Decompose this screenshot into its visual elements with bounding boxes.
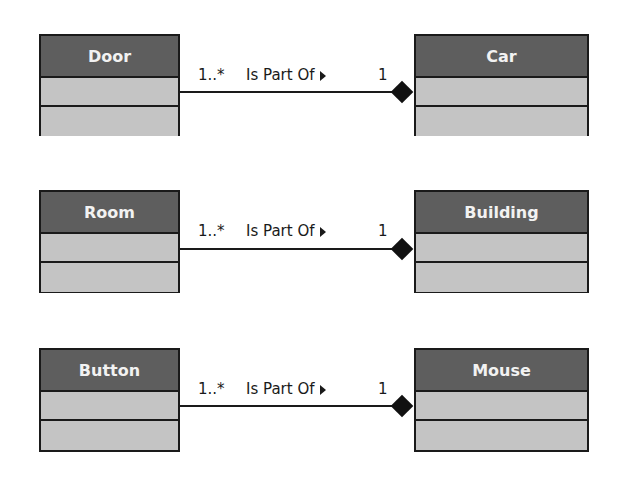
operations-compartment (416, 421, 587, 450)
class-header: Building (416, 192, 587, 234)
association-label: Is Part Of (246, 66, 326, 84)
class-door[interactable]: Door (39, 34, 180, 136)
class-name: Car (486, 47, 516, 66)
class-header: Door (41, 36, 178, 78)
filled-diamond-icon (391, 81, 414, 104)
class-name: Room (84, 203, 135, 222)
class-building[interactable]: Building (414, 190, 589, 293)
association-label: Is Part Of (246, 380, 326, 398)
part-multiplicity: 1..* (198, 222, 225, 240)
part-multiplicity: 1..* (198, 66, 225, 84)
composition-line[interactable] (180, 91, 402, 93)
triangle-right-icon (320, 71, 326, 81)
attributes-compartment (416, 234, 587, 263)
filled-diamond-icon (391, 395, 414, 418)
attributes-compartment (41, 392, 178, 421)
attributes-compartment (416, 78, 587, 107)
part-multiplicity: 1..* (198, 380, 225, 398)
triangle-right-icon (320, 385, 326, 395)
class-header: Button (41, 350, 178, 392)
attributes-compartment (41, 234, 178, 263)
triangle-right-icon (320, 227, 326, 237)
association-label: Is Part Of (246, 222, 326, 240)
class-name: Door (88, 47, 131, 66)
class-name: Building (464, 203, 538, 222)
filled-diamond-icon (391, 238, 414, 261)
class-button[interactable]: Button (39, 348, 180, 452)
operations-compartment (41, 263, 178, 292)
class-mouse[interactable]: Mouse (414, 348, 589, 452)
whole-multiplicity: 1 (378, 380, 388, 398)
class-name: Button (79, 361, 140, 380)
attributes-compartment (41, 78, 178, 107)
class-car[interactable]: Car (414, 34, 589, 136)
class-header: Mouse (416, 350, 587, 392)
whole-multiplicity: 1 (378, 222, 388, 240)
operations-compartment (41, 107, 178, 136)
operations-compartment (416, 107, 587, 136)
operations-compartment (41, 421, 178, 450)
composition-line[interactable] (180, 248, 402, 250)
class-header: Car (416, 36, 587, 78)
operations-compartment (416, 263, 587, 292)
attributes-compartment (416, 392, 587, 421)
whole-multiplicity: 1 (378, 66, 388, 84)
class-room[interactable]: Room (39, 190, 180, 293)
composition-line[interactable] (180, 405, 402, 407)
class-header: Room (41, 192, 178, 234)
class-name: Mouse (472, 361, 531, 380)
